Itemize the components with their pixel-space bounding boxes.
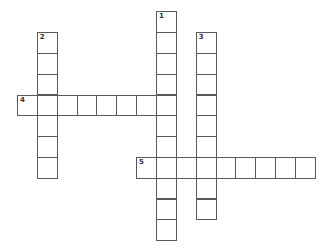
crossword-cell[interactable] (295, 157, 316, 179)
crossword-cell[interactable] (136, 95, 157, 117)
crossword-cell[interactable]: 4 (17, 95, 38, 117)
crossword-cell[interactable] (156, 32, 177, 54)
crossword-cell[interactable] (37, 74, 58, 96)
crossword-cell[interactable] (196, 95, 217, 117)
crossword-cell[interactable] (156, 53, 177, 75)
crossword-cell[interactable] (156, 219, 177, 241)
crossword-cell[interactable] (196, 53, 217, 75)
crossword-cell[interactable] (116, 95, 137, 117)
crossword-cell[interactable] (196, 136, 217, 158)
crossword-cell[interactable]: 1 (156, 11, 177, 33)
crossword-cell[interactable] (196, 74, 217, 96)
crossword-cell[interactable] (196, 178, 217, 200)
crossword-cell[interactable] (156, 74, 177, 96)
crossword-cell[interactable] (196, 199, 217, 221)
crossword-cell[interactable] (235, 157, 256, 179)
clue-number: 1 (159, 13, 164, 20)
crossword-cell[interactable] (77, 95, 98, 117)
clue-number: 4 (20, 97, 25, 104)
crossword-cell[interactable] (37, 53, 58, 75)
crossword-cell[interactable] (37, 115, 58, 137)
clue-number: 5 (139, 159, 144, 166)
crossword-cell[interactable] (96, 95, 117, 117)
crossword-cell[interactable]: 3 (196, 32, 217, 54)
crossword-cell[interactable] (196, 157, 217, 179)
crossword-cell[interactable] (156, 136, 177, 158)
crossword-cell[interactable] (255, 157, 276, 179)
crossword-cell[interactable] (156, 95, 177, 117)
crossword-cell[interactable] (156, 178, 177, 200)
clue-number: 3 (199, 34, 204, 41)
crossword-cell[interactable] (156, 115, 177, 137)
crossword-cell[interactable] (156, 199, 177, 221)
crossword-cell[interactable] (275, 157, 296, 179)
crossword-cell[interactable] (216, 157, 237, 179)
crossword-cell[interactable] (37, 136, 58, 158)
crossword-cell[interactable] (37, 95, 58, 117)
crossword-grid: 12345 (0, 0, 326, 250)
crossword-cell[interactable]: 2 (37, 32, 58, 54)
crossword-cell[interactable] (37, 157, 58, 179)
crossword-cell[interactable] (156, 157, 177, 179)
clue-number: 2 (40, 34, 45, 41)
crossword-cell[interactable] (57, 95, 78, 117)
crossword-cell[interactable] (196, 115, 217, 137)
crossword-cell[interactable]: 5 (136, 157, 157, 179)
crossword-cell[interactable] (176, 157, 197, 179)
